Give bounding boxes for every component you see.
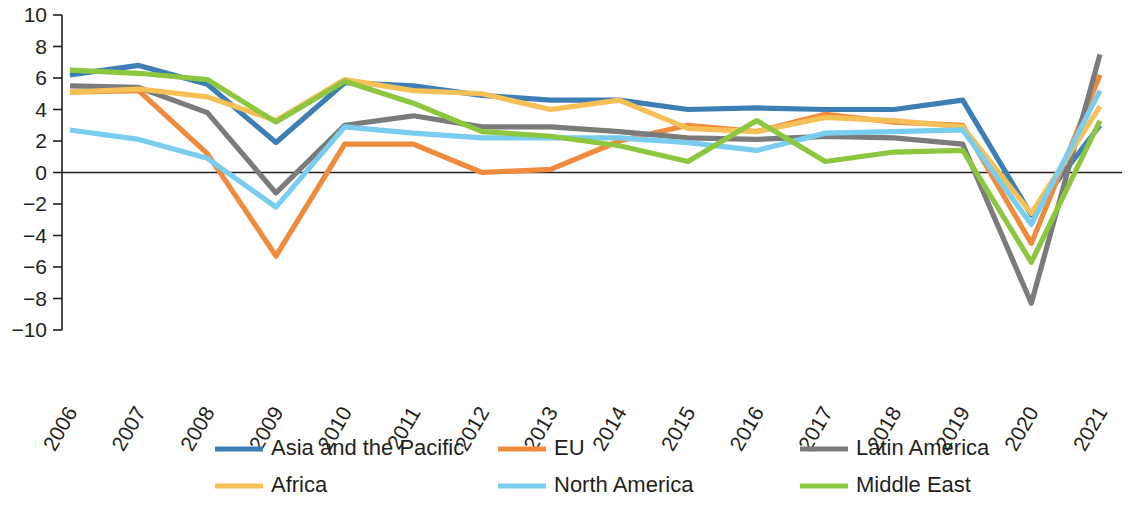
legend-label: Latin America bbox=[856, 435, 990, 460]
y-tick-label: 10 bbox=[24, 3, 47, 26]
y-tick-label: 4 bbox=[35, 98, 47, 121]
y-tick-label: 0 bbox=[35, 161, 47, 184]
y-tick-label: 6 bbox=[35, 66, 47, 89]
y-tick-label: 2 bbox=[35, 129, 47, 152]
x-tick-label: 2008 bbox=[176, 403, 219, 455]
y-tick-label: −8 bbox=[23, 287, 47, 310]
legend-label: Middle East bbox=[856, 472, 971, 497]
y-axis: 1086420−2−4−6−8−10 bbox=[11, 3, 62, 341]
legend-label: Africa bbox=[271, 472, 328, 497]
y-tick-label: −10 bbox=[11, 318, 47, 341]
line-chart: 1086420−2−4−6−8−10 200620072008200920102… bbox=[0, 0, 1132, 506]
chart-canvas: 1086420−2−4−6−8−10 200620072008200920102… bbox=[0, 0, 1132, 506]
y-tick-label: −2 bbox=[23, 192, 47, 215]
legend-label: North America bbox=[554, 472, 694, 497]
x-tick-label: 2016 bbox=[725, 403, 768, 455]
x-tick-label: 2021 bbox=[1068, 403, 1111, 455]
x-tick-label: 2007 bbox=[107, 403, 150, 455]
legend-label: EU bbox=[554, 435, 585, 460]
x-tick-label: 2015 bbox=[656, 403, 699, 455]
series-lines bbox=[70, 54, 1100, 303]
x-tick-label: 2006 bbox=[38, 403, 81, 455]
y-tick-label: −6 bbox=[23, 255, 47, 278]
legend-label: Asia and the Pacific bbox=[271, 435, 464, 460]
x-tick-label: 2014 bbox=[588, 402, 631, 454]
x-tick-label: 2020 bbox=[1000, 403, 1043, 455]
y-tick-label: 8 bbox=[35, 35, 47, 58]
y-tick-label: −4 bbox=[23, 224, 47, 247]
